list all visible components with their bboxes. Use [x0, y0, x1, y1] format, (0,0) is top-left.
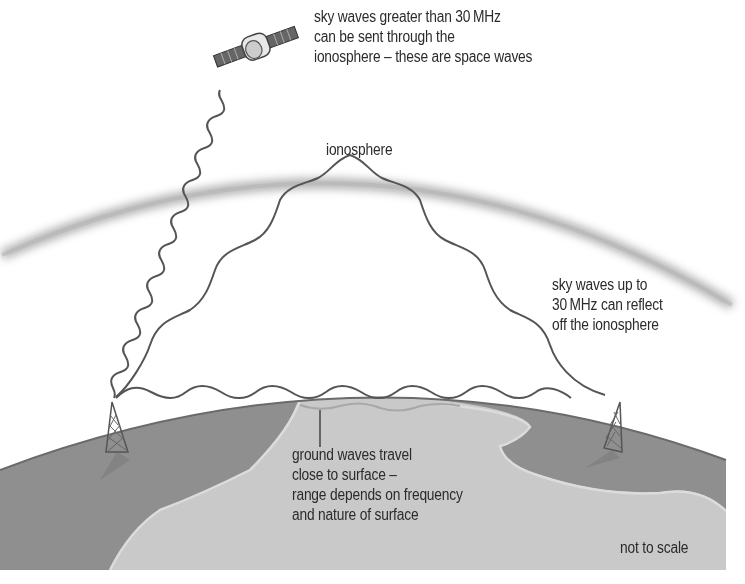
space-waves-line-3: ionosphere – these are space waves — [314, 47, 532, 67]
propagation-diagram: sky waves greater than 30 MHz can be sen… — [0, 0, 745, 584]
ground-waves-label: ground waves travel close to surface – r… — [292, 445, 463, 525]
not-to-scale-note: not to scale — [620, 538, 688, 558]
sky-waves-line-3: off the ionosphere — [552, 315, 663, 335]
ground-waves-line-2: close to surface – — [292, 465, 463, 485]
ground-waves-line-4: and nature of surface — [292, 505, 463, 525]
space-waves-line-1: sky waves greater than 30 MHz — [314, 7, 532, 27]
satellite-icon — [211, 21, 300, 73]
sky-waves-line-2: 30 MHz can reflect — [552, 295, 663, 315]
ground-waves-line-3: range depends on frequency — [292, 485, 463, 505]
space-waves-line-2: can be sent through the — [314, 27, 532, 47]
sky-waves-line-1: sky waves up to — [552, 275, 663, 295]
ionosphere-label: ionosphere — [326, 140, 392, 160]
ground-wave — [116, 386, 571, 398]
ground-waves-line-1: ground waves travel — [292, 445, 463, 465]
space-wave — [111, 90, 224, 398]
space-waves-label: sky waves greater than 30 MHz can be sen… — [314, 7, 532, 67]
sky-waves-label: sky waves up to 30 MHz can reflect off t… — [552, 275, 663, 335]
